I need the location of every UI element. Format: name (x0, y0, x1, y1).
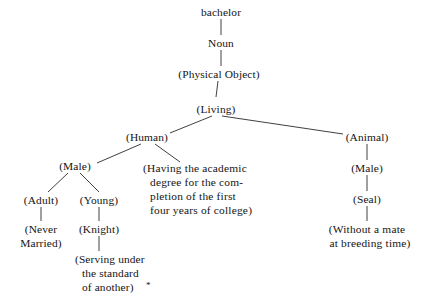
node-serving-line-2: the standard (82, 267, 139, 279)
node-young: (Young) (80, 194, 118, 207)
node-animal: (Animal) (346, 131, 389, 144)
node-bachelor: bachelor (201, 6, 241, 18)
node-human: (Human) (126, 131, 168, 144)
tree-canvas: bachelor Noun (Physical Object) (Living)… (0, 0, 427, 307)
semantic-tree-diagram: bachelor Noun (Physical Object) (Living)… (0, 0, 427, 307)
edge-group (41, 19, 367, 251)
node-degree-line-3: pletion of the first (150, 190, 237, 202)
node-degree-line-4: four years of college) (150, 204, 252, 217)
edge-living-animal (222, 116, 343, 134)
node-without-mate-line-2: at breeding time) (329, 237, 410, 250)
edge-male-adult (48, 173, 68, 192)
node-serving-line-3: of another) (82, 281, 134, 294)
node-degree-line-1: (Having the academic (143, 162, 247, 175)
node-never-married-line-1: (Never (25, 223, 57, 236)
edge-human-male (97, 144, 141, 163)
node-animal-male: (Male) (351, 162, 383, 175)
node-living: (Living) (197, 103, 236, 116)
node-physical-object: (Physical Object) (178, 68, 260, 81)
edge-human-degree (155, 144, 180, 162)
node-degree-line-2: degree for the com- (150, 176, 243, 188)
node-human-male: (Male) (59, 160, 91, 173)
edge-physical-object-living (216, 81, 218, 97)
edge-male-young (80, 173, 99, 192)
node-noun: Noun (208, 37, 234, 49)
node-without-mate-line-1: (Without a mate (329, 223, 406, 236)
node-seal: (Seal) (353, 193, 381, 206)
node-serving-line-1: (Serving under (75, 253, 145, 266)
node-knight: (Knight) (79, 223, 119, 236)
edge-living-human (170, 116, 212, 133)
footnote-asterisk: * (146, 280, 151, 290)
node-adult: (Adult) (24, 194, 58, 207)
node-never-married-line-2: Married) (20, 237, 62, 250)
